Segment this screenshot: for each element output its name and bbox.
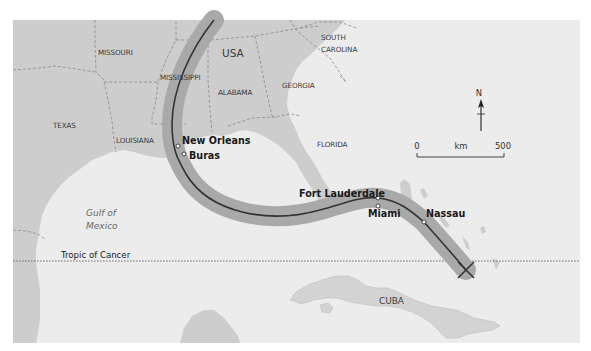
state-label-missouri: MISSOURI	[98, 48, 133, 57]
state-label-alabama: ALABAMA	[218, 88, 252, 97]
sea-label-gulf-of-mexico-line1: Gulf of	[86, 208, 118, 218]
city-marker-buras	[182, 152, 186, 156]
scale-end-label: 500	[495, 141, 511, 151]
tropic-of-cancer-label: Tropic of Cancer	[60, 250, 131, 260]
sea-label-gulf-of-mexico-line2: Mexico	[86, 221, 118, 231]
north-arrow-label: N	[476, 88, 482, 98]
state-label-mississippi: MISSISSIPPI	[160, 73, 201, 82]
city-label-fort-lauderdale: Fort Lauderdale	[299, 188, 386, 199]
city-label-buras: Buras	[189, 150, 220, 161]
state-label-georgia: GEORGIA	[282, 81, 315, 90]
scale-unit-label: km	[454, 141, 467, 151]
city-marker-nassau	[422, 220, 426, 224]
country-label-usa: USA	[222, 47, 245, 59]
city-label-nassau: Nassau	[426, 208, 465, 219]
hurricane-track-map: MISSOURI USA MISSISSIPPI ALABAMA GEORGIA…	[0, 0, 591, 351]
state-label-texas: TEXAS	[52, 121, 76, 130]
state-label-south-carolina-line2: CAROLINA	[321, 45, 357, 54]
state-label-south-carolina-line1: SOUTH	[321, 33, 346, 42]
city-label-miami: Miami	[368, 208, 401, 219]
state-label-florida: FLORIDA	[317, 140, 347, 149]
city-marker-new-orleans	[176, 144, 180, 148]
scale-start-label: 0	[414, 141, 419, 151]
state-label-louisiana: LOUISIANA	[116, 136, 154, 145]
city-label-new-orleans: New Orleans	[182, 135, 251, 146]
country-label-cuba: CUBA	[379, 296, 405, 306]
